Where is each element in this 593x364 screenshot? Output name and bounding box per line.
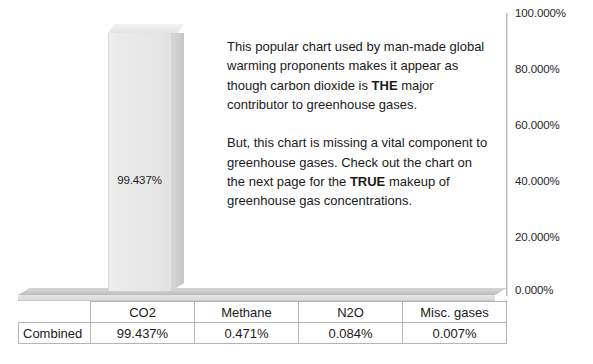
annotation-p1-emphasis: THE [372,78,398,93]
annotation-text-block: This popular chart used by man-made glob… [227,37,489,211]
table-cell-methane: 0.471% [195,323,299,344]
annotation-p2-emphasis: TRUE [350,174,385,189]
bar-value-label: 99.437% [108,174,171,186]
chart-floor-plane [18,288,507,301]
table-cell-n2o: 0.084% [299,323,403,344]
table-corner-cell [19,302,91,323]
table-header-cell-methane: Methane [195,302,299,323]
table-header-cell-n2o: N2O [299,302,403,323]
table-cell-misc: 0.007% [403,323,507,344]
table-header-cell-co2: CO2 [91,302,195,323]
annotation-paragraph-2: But, this chart is missing a vital compo… [227,133,489,210]
table-row: Combined 99.437% 0.471% 0.084% 0.007% [19,323,507,344]
annotation-p1-text-before: This popular chart used by man-made glob… [227,39,484,93]
greenhouse-gas-chart: 100.000% 80.000% 60.000% 40.000% 20.000%… [0,0,593,364]
bar-top-face [108,24,184,33]
table-cell-co2: 99.437% [91,323,195,344]
y-axis-tick-label: 100.000% [515,7,566,19]
y-axis-tick-label: 40.000% [515,175,560,187]
table-header-cell-misc: Misc. gases [403,302,507,323]
y-axis-line-shadow [507,13,508,296]
y-axis-tick-label: 20.000% [515,231,560,243]
annotation-paragraph-1: This popular chart used by man-made glob… [227,37,489,114]
chart-floor-top [18,288,507,295]
bar-side-face [171,33,184,291]
y-axis-tick-label: 80.000% [515,63,560,75]
y-axis-tick-label: 0.000% [515,284,553,296]
data-table: CO2 Methane N2O Misc. gases Combined 99.… [18,301,507,344]
plot-area: 100.000% 80.000% 60.000% 40.000% 20.000%… [0,0,593,300]
bar-co2[interactable]: 99.437% [108,24,184,291]
table-header-row: CO2 Methane N2O Misc. gases [19,302,507,323]
table-row-header-combined: Combined [19,323,91,344]
y-axis-tick-label: 60.000% [515,119,560,131]
y-axis-tick-labels: 100.000% 80.000% 60.000% 40.000% 20.000%… [515,0,593,300]
bar-front-face [108,33,171,291]
